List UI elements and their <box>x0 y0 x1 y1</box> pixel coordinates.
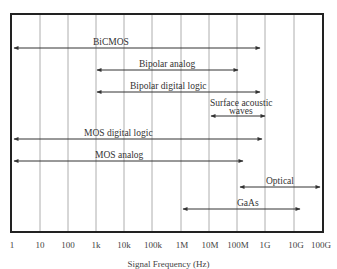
label-mos-digital: MOS digital logic <box>84 128 153 138</box>
label-saw-line2: waves <box>229 106 253 116</box>
tick-label: 10M <box>201 240 218 250</box>
tick-label: 100 <box>61 240 75 250</box>
technology-frequency-diagram: BiCMOS Bipolar analog Bipolar digital lo… <box>0 0 337 269</box>
tick-label: 10G <box>288 240 304 250</box>
label-mos-analog: MOS analog <box>95 150 143 160</box>
label-bipolar-digital: Bipolar digital logic <box>130 81 207 91</box>
tick-label: 1 <box>10 240 15 250</box>
label-bipolar-analog: Bipolar analog <box>139 59 195 69</box>
tick-label: 100M <box>227 240 249 250</box>
tick-label: 1k <box>92 240 101 250</box>
plot-frame <box>11 14 323 232</box>
tick-label: 1M <box>176 240 189 250</box>
label-gaas: GaAs <box>237 198 259 208</box>
tick-label: 10k <box>117 240 131 250</box>
diagram-canvas <box>0 0 337 269</box>
tick-label: 100G <box>311 240 331 250</box>
tick-label: 10 <box>36 240 45 250</box>
label-optical: Optical <box>266 176 294 186</box>
x-axis-title: Signal Frequency (Hz) <box>0 259 337 269</box>
label-bicmos: BiCMOS <box>93 37 129 47</box>
tick-label: 100k <box>144 240 162 250</box>
tick-label: 1G <box>260 240 271 250</box>
